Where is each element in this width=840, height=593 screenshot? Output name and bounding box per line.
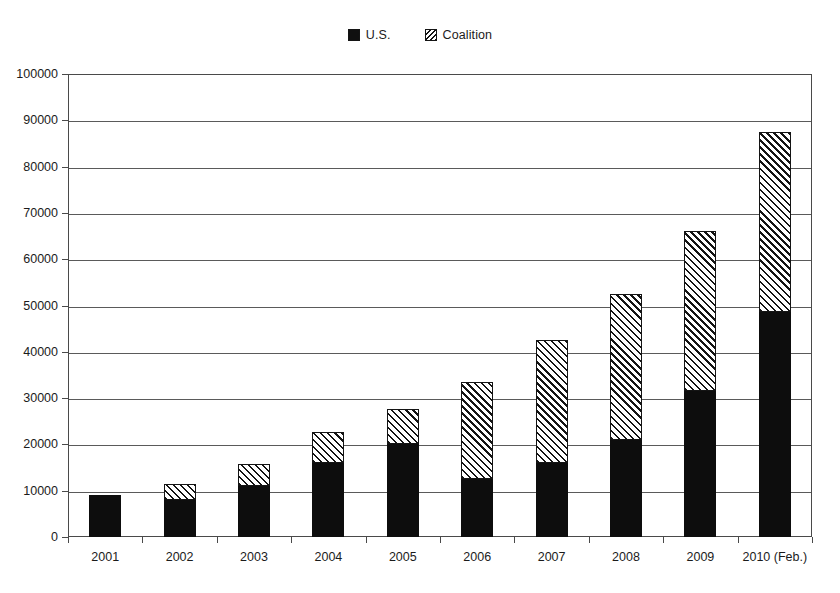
x-tick-label: 2006	[463, 550, 491, 564]
gridline	[69, 445, 811, 446]
x-axis: 2001200220032004200520062007200820092010…	[68, 537, 812, 577]
x-tick-mark	[142, 537, 143, 543]
x-tick-mark	[589, 537, 590, 543]
y-tick-label: 40000	[0, 345, 58, 359]
x-tick-label: 2008	[612, 550, 640, 564]
y-tick-label: 10000	[0, 484, 58, 498]
y-tick-label: 50000	[0, 299, 58, 313]
y-tick-label: 70000	[0, 206, 58, 220]
gridline	[69, 492, 811, 493]
y-tick-label: 100000	[0, 67, 58, 81]
gridline	[69, 214, 811, 215]
x-tick-mark	[217, 537, 218, 543]
hatched-square-icon	[425, 29, 437, 41]
legend-entry-us: U.S.	[348, 28, 391, 42]
solid-square-icon	[348, 29, 360, 41]
legend-entry-coalition: Coalition	[425, 28, 493, 42]
gridline	[69, 260, 811, 261]
x-tick-label: 2003	[240, 550, 268, 564]
x-tick-label: 2007	[538, 550, 566, 564]
x-tick-label: 2004	[314, 550, 342, 564]
y-tick-label: 0	[0, 530, 58, 544]
x-tick-label: 2009	[686, 550, 714, 564]
y-tick-label: 20000	[0, 437, 58, 451]
gridline	[69, 121, 811, 122]
x-tick-label: 2010 (Feb.)	[742, 550, 807, 564]
y-tick-label: 80000	[0, 160, 58, 174]
gridline	[69, 353, 811, 354]
x-tick-mark	[514, 537, 515, 543]
x-tick-mark	[366, 537, 367, 543]
x-tick-mark	[291, 537, 292, 543]
x-tick-mark	[440, 537, 441, 543]
plot-area	[68, 74, 812, 537]
y-tick-label: 60000	[0, 252, 58, 266]
legend-label-us: U.S.	[366, 28, 391, 42]
gridline	[69, 307, 811, 308]
x-tick-label: 2005	[389, 550, 417, 564]
gridline	[69, 168, 811, 169]
x-tick-mark	[812, 537, 813, 543]
chart-legend: U.S. Coalition	[0, 28, 840, 42]
y-tick-label: 30000	[0, 391, 58, 405]
x-tick-mark	[68, 537, 69, 543]
x-tick-mark	[738, 537, 739, 543]
x-tick-mark	[663, 537, 664, 543]
y-tick-label: 90000	[0, 113, 58, 127]
gridline	[69, 399, 811, 400]
legend-label-coalition: Coalition	[443, 28, 493, 42]
x-tick-label: 2002	[166, 550, 194, 564]
x-tick-label: 2001	[91, 550, 119, 564]
